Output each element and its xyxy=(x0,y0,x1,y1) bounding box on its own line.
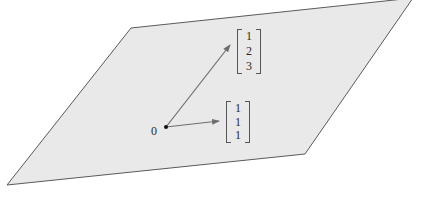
plane-diagram: 0 1 2 3 1 1 1 xyxy=(0,0,431,199)
vector-entries: 1 1 1 xyxy=(231,101,245,143)
vector-component: 1 xyxy=(246,30,252,43)
vector-label-111: 1 1 1 xyxy=(226,101,250,143)
vector-component: 2 xyxy=(246,45,252,58)
origin-point xyxy=(164,125,168,129)
vector-component: 1 xyxy=(235,129,241,142)
vector-component: 1 xyxy=(235,116,241,129)
plane-parallelogram xyxy=(7,0,413,185)
vector-entries: 1 2 3 xyxy=(242,29,256,74)
vector-component: 3 xyxy=(246,60,252,73)
vector-component: 1 xyxy=(235,102,241,115)
right-bracket xyxy=(245,101,250,143)
origin-label: 0 xyxy=(151,125,157,137)
vector-label-123: 1 2 3 xyxy=(237,29,261,74)
right-bracket xyxy=(256,29,261,74)
diagram-svg xyxy=(0,0,431,199)
